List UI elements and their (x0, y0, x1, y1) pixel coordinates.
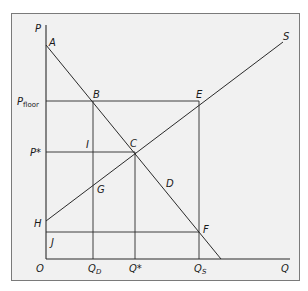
equilibrium-quantity-label: Q* (129, 263, 142, 274)
diagram-frame (12, 14, 300, 281)
point-i-label: I (86, 139, 89, 150)
x-axis-label: Q (281, 263, 289, 274)
point-e-label: E (196, 89, 203, 100)
quantity-supplied-sub: S (202, 268, 207, 276)
origin-label: O (36, 263, 44, 274)
point-d-label: D (166, 178, 174, 189)
quantity-demanded-main: Q (88, 263, 96, 274)
point-b-label: B (93, 89, 100, 100)
equilibrium-price-label: P* (30, 147, 41, 158)
price-floor-sub: floor (23, 101, 39, 109)
y-axis-label: P (35, 23, 42, 34)
price-floor-diagram: P Q O Pfloor P* QD Q* QS A B C D E F G H… (0, 0, 308, 291)
quantity-demanded-sub: D (96, 268, 102, 276)
point-a-label: A (48, 37, 56, 48)
quantity-supplied-main: Q (194, 263, 202, 274)
point-g-label: G (97, 184, 105, 195)
supply-curve-label: S (283, 31, 290, 42)
point-c-label: C (130, 138, 137, 149)
point-h-label: H (34, 218, 42, 229)
point-f-label: F (203, 224, 209, 235)
